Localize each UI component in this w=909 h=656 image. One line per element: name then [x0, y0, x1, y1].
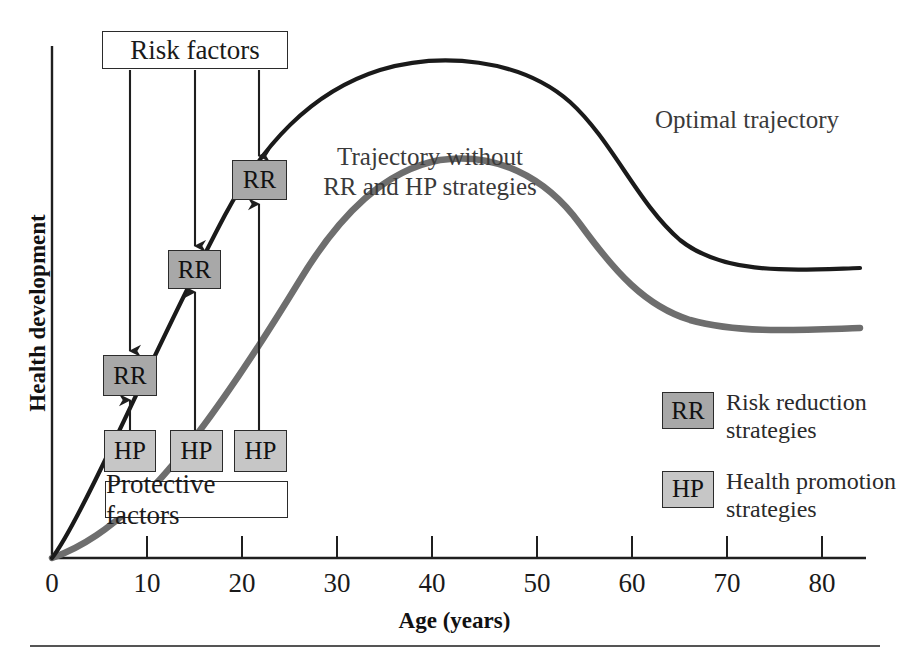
hp-node-1: HP — [104, 430, 156, 472]
y-axis-title: Health development — [25, 183, 51, 443]
legend-item-health-promotion: HP Health promotion strategies — [662, 467, 896, 524]
x-tick-label-70: 70 — [702, 568, 752, 598]
x-tick-label-0: 0 — [32, 568, 72, 598]
x-tick-label-50: 50 — [512, 568, 562, 598]
hp-node-3: HP — [234, 430, 287, 472]
without-strategies-label-line1: Trajectory without — [300, 143, 560, 171]
protective-factors-box: Protective factors — [105, 481, 288, 518]
x-tick-label-80: 80 — [797, 568, 847, 598]
legend-label-rr-line2: strategies — [726, 416, 867, 444]
x-tick-label-10: 10 — [122, 568, 172, 598]
figure-bottom-rule — [30, 645, 880, 647]
risk-factors-box: Risk factors — [102, 31, 288, 69]
legend-label-rr-line1: Risk reduction — [726, 388, 867, 416]
legend: RR Risk reduction strategies HP Health p… — [662, 388, 896, 523]
legend-label-hp-line2: strategies — [726, 495, 896, 523]
health-development-trajectory-figure: Health development 0 10 20 30 40 50 60 7… — [0, 0, 909, 656]
legend-marker-hp: HP — [662, 471, 714, 508]
rr-node-1: RR — [103, 355, 157, 396]
hp-node-2: HP — [170, 430, 223, 472]
optimal-trajectory-label: Optimal trajectory — [655, 106, 839, 134]
x-axis-ticks — [147, 536, 822, 558]
legend-item-risk-reduction: RR Risk reduction strategies — [662, 388, 896, 445]
rr-node-3: RR — [232, 160, 287, 200]
x-tick-label-20: 20 — [217, 568, 267, 598]
legend-marker-rr: RR — [662, 392, 714, 429]
legend-label-hp-line1: Health promotion — [726, 467, 896, 495]
x-tick-label-40: 40 — [407, 568, 457, 598]
diagram-canvas — [0, 0, 909, 656]
x-tick-label-60: 60 — [607, 568, 657, 598]
legend-label-rr: Risk reduction strategies — [726, 388, 867, 445]
legend-label-hp: Health promotion strategies — [726, 467, 896, 524]
rr-node-2: RR — [168, 250, 221, 289]
without-strategies-label-line2: RR and HP strategies — [300, 173, 560, 201]
x-axis-title: Age (years) — [0, 608, 909, 634]
x-tick-label-30: 30 — [312, 568, 362, 598]
